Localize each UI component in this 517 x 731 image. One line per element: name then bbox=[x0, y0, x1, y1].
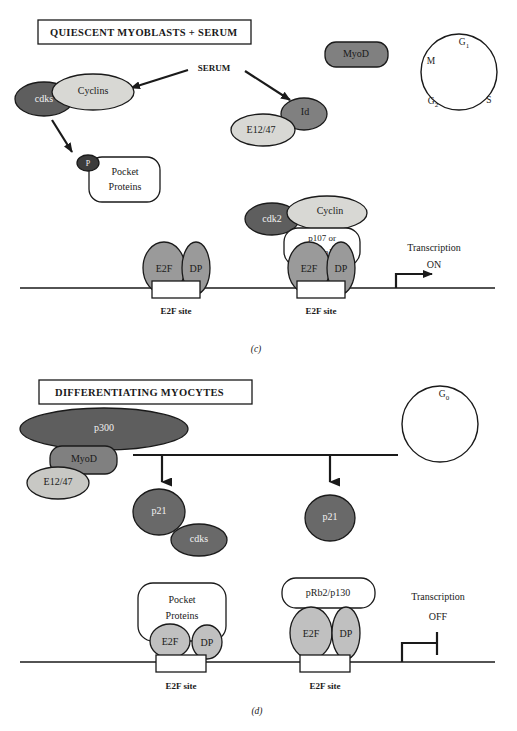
myod-label-c: MyoD bbox=[343, 48, 369, 59]
transcription-label-d-line1: Transcription bbox=[411, 591, 465, 602]
cdk2-label: cdk2 bbox=[262, 213, 281, 224]
panel-d-title-text: DIFFERENTIATING MYOCYTES bbox=[55, 387, 224, 398]
dp-label-d-right: DP bbox=[340, 628, 353, 639]
dp-label-c-right: DP bbox=[335, 263, 348, 274]
cdks-label-d: cdks bbox=[190, 533, 208, 544]
cyclin-label: Cyclin bbox=[317, 205, 344, 216]
pocket-proteins-line1-d: Pocket bbox=[168, 594, 195, 605]
e12-47-label-d: E12/47 bbox=[44, 476, 73, 487]
e2f-site-label-d-left: E2F site bbox=[166, 681, 197, 691]
e2f-site-box-c-left bbox=[152, 281, 200, 298]
p107-line1: p107 or bbox=[308, 233, 336, 243]
e12-47-label: E12/47 bbox=[247, 124, 276, 135]
transcription-label-c-line1: Transcription bbox=[407, 242, 461, 253]
pocket-proteins-line2-c: Proteins bbox=[109, 181, 142, 192]
p21-label-left: p21 bbox=[152, 505, 167, 516]
phosphate-label-c: P bbox=[86, 159, 91, 168]
transcription-label-c-line2: ON bbox=[427, 259, 441, 270]
pocket-proteins-box-c bbox=[89, 157, 160, 202]
prb2-p130-group-d: pRb2/p130 bbox=[282, 578, 375, 608]
e2f-site-box-c-right bbox=[297, 281, 345, 298]
myod-group-c: MyoD bbox=[325, 42, 388, 67]
panel-c-title-text: QUIESCENT MYOBLASTS + SERUM bbox=[50, 27, 237, 38]
cdks-label: cdks bbox=[35, 93, 53, 104]
e2f-label-d-left: E2F bbox=[162, 636, 179, 647]
e2f-site-label-c-left: E2F site bbox=[161, 306, 192, 316]
p21-label-right: p21 bbox=[323, 511, 338, 522]
e2f-label-c-left: E2F bbox=[156, 263, 173, 274]
transcription-label-d-line2: OFF bbox=[429, 611, 448, 622]
id-label: Id bbox=[301, 106, 309, 117]
prb2-p130-label-d: pRb2/p130 bbox=[306, 587, 350, 598]
p21-single: p21 bbox=[305, 495, 355, 541]
e2f-site-box-d-right bbox=[300, 655, 350, 672]
serum-label: SERUM bbox=[198, 63, 231, 73]
pocket-proteins-line2-d: Proteins bbox=[166, 610, 199, 621]
p300-label: p300 bbox=[94, 422, 114, 433]
e2f-site-label-d-right: E2F site bbox=[310, 681, 341, 691]
e2f-label-c-right: E2F bbox=[301, 263, 318, 274]
panel-d-letter: (d) bbox=[251, 706, 262, 717]
panel-d-title-box: DIFFERENTIATING MYOCYTES bbox=[39, 380, 252, 404]
myod-label-d: MyoD bbox=[71, 453, 97, 464]
cyclins-label: Cyclins bbox=[78, 85, 109, 96]
dp-label-d-left: DP bbox=[201, 637, 214, 648]
pocket-proteins-line1-c: Pocket bbox=[111, 166, 138, 177]
e2f-label-d-right: E2F bbox=[303, 628, 320, 639]
panel-c-letter: (c) bbox=[251, 344, 262, 355]
panel-c-title-box: QUIESCENT MYOBLASTS + SERUM bbox=[38, 20, 251, 44]
e2f-site-box-d-left bbox=[156, 655, 206, 672]
dp-label-c-left: DP bbox=[190, 263, 203, 274]
cycle-phase-m: M bbox=[427, 56, 436, 66]
figure-canvas: QUIESCENT MYOBLASTS + SERUM SERUM cdks C… bbox=[0, 0, 517, 731]
e2f-site-label-c-right: E2F site bbox=[306, 306, 337, 316]
cycle-phase-s: S bbox=[486, 95, 491, 105]
